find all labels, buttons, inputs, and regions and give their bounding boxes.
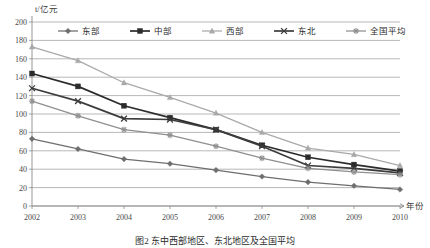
data-point-asterisk xyxy=(213,143,219,149)
y-axis-unit-label: t/亿元 xyxy=(35,4,58,14)
legend-label: 西部 xyxy=(226,26,244,36)
legend-label: 东部 xyxy=(82,26,100,36)
y-tick-label: 100 xyxy=(15,110,27,119)
legend-item-中部[interactable]: 中部 xyxy=(130,26,172,36)
chart-svg: 020406080100120140160180200 200220032004… xyxy=(0,0,430,248)
data-point-asterisk xyxy=(121,127,127,133)
data-point-asterisk xyxy=(29,98,35,104)
data-point-diamond xyxy=(259,174,265,180)
y-tick-label: 60 xyxy=(19,147,27,156)
data-point-asterisk xyxy=(351,169,357,175)
data-point-diamond xyxy=(121,156,127,162)
data-point-asterisk xyxy=(75,113,81,119)
x-tick-label: 2004 xyxy=(116,213,132,222)
data-point-square xyxy=(122,103,127,108)
y-tick-label: 180 xyxy=(15,36,27,45)
legend-item-东部[interactable]: 东部 xyxy=(58,26,100,36)
data-point-diamond xyxy=(213,167,219,173)
data-point-asterisk xyxy=(353,28,359,34)
figure-root: 020406080100120140160180200 200220032004… xyxy=(0,0,430,248)
x-tick-label: 2006 xyxy=(208,213,224,222)
legend-item-东北[interactable]: 东北 xyxy=(274,26,316,36)
data-point-square xyxy=(138,29,143,34)
y-tick-label: 160 xyxy=(15,55,27,64)
y-tick-label: 20 xyxy=(19,184,27,193)
data-point-asterisk xyxy=(397,172,403,178)
x-tick-label: 2007 xyxy=(254,213,270,222)
y-tick-label: 120 xyxy=(15,92,27,101)
data-point-triangle xyxy=(29,44,35,49)
data-point-diamond xyxy=(65,28,71,34)
legend-item-全国平均[interactable]: 全国平均 xyxy=(346,26,406,36)
series-line-中部 xyxy=(32,74,400,172)
data-point-asterisk xyxy=(259,155,265,161)
x-tick-labels: 200220032004200520062007200820092010 xyxy=(24,213,408,222)
y-tick-labels: 020406080100120140160180200 xyxy=(15,18,27,211)
data-point-asterisk xyxy=(305,165,311,171)
legend-label: 东北 xyxy=(298,26,316,36)
data-point-square xyxy=(76,84,81,89)
data-point-diamond xyxy=(29,136,35,142)
data-point-diamond xyxy=(167,161,173,167)
y-tick-label: 140 xyxy=(15,73,27,82)
figure-caption: 图2 东中西部地区、东北地区及全国平均 xyxy=(135,235,295,246)
legend-item-西部[interactable]: 西部 xyxy=(202,26,244,36)
y-tick-label: 80 xyxy=(19,128,27,137)
x-tick-label: 2002 xyxy=(24,213,40,222)
data-point-diamond xyxy=(305,179,311,185)
y-tick-label: 40 xyxy=(19,165,27,174)
legend-label: 中部 xyxy=(154,26,172,36)
data-point-square xyxy=(306,155,311,160)
chart-legend: 东部中部西部东北全国平均 xyxy=(58,26,406,36)
y-tick-label: 0 xyxy=(23,202,27,211)
data-point-square xyxy=(30,71,35,76)
x-tick-label: 2005 xyxy=(162,213,178,222)
x-tick-label: 2003 xyxy=(70,213,86,222)
x-axis-label: 年份 xyxy=(406,201,424,211)
x-tick-label: 2010 xyxy=(392,213,408,222)
x-tick-label: 2009 xyxy=(346,213,362,222)
x-tick-label: 2008 xyxy=(300,213,316,222)
data-point-asterisk xyxy=(167,132,173,138)
y-tick-label: 200 xyxy=(15,18,27,27)
line-chart: 020406080100120140160180200 200220032004… xyxy=(0,0,430,248)
legend-label: 全国平均 xyxy=(370,26,406,36)
